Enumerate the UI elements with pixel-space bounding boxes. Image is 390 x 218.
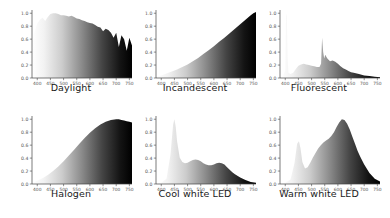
y-tick-label: 0.8: [269, 24, 276, 29]
spectrum-area: [32, 13, 132, 78]
chart-title-fluorescent: Fluorescent: [254, 82, 384, 93]
y-tick-label: 0.4: [269, 50, 276, 55]
y-tick-label: 0.6: [269, 37, 276, 42]
y-tick-label: 1.0: [145, 11, 152, 16]
y-tick-label: 0.2: [269, 63, 276, 68]
y-tick-label: 0.8: [21, 130, 28, 135]
y-tick-label: 0.2: [21, 169, 28, 174]
y-tick-label: 1.0: [269, 117, 276, 122]
chart-panel-daylight: 0.00.20.40.60.81.04004505005506006507007…: [6, 2, 136, 111]
chart-plot-fluorescent: 0.00.20.40.60.81.04004505005506006507007…: [254, 2, 384, 111]
chart-panel-cool-white-led: 0.00.20.40.60.81.04004505005506006507007…: [130, 108, 260, 217]
y-tick-label: 0.6: [21, 37, 28, 42]
y-tick-label: 0.2: [269, 169, 276, 174]
y-tick-label: 0.6: [145, 37, 152, 42]
y-tick-label: 1.0: [21, 11, 28, 16]
y-tick-label: 1.0: [269, 11, 276, 16]
y-tick-label: 0.2: [145, 169, 152, 174]
chart-plot-incandescent: 0.00.20.40.60.81.04004505005506006507007…: [130, 2, 260, 111]
y-tick-label: 0.4: [145, 156, 152, 161]
spectrum-area: [32, 119, 132, 184]
chart-panel-warm-white-led: 0.00.20.40.60.81.04004505005506006507007…: [254, 108, 384, 217]
chart-plot-cool-white-led: 0.00.20.40.60.81.04004505005506006507007…: [130, 108, 260, 217]
y-tick-label: 0.4: [145, 50, 152, 55]
y-tick-label: 0.0: [269, 76, 276, 81]
chart-title-cool-white-led: Cool white LED: [130, 188, 260, 199]
chart-title-incandescent: Incandescent: [130, 82, 260, 93]
y-tick-label: 0.0: [21, 76, 28, 81]
chart-title-daylight: Daylight: [6, 82, 136, 93]
y-tick-label: 0.4: [269, 156, 276, 161]
y-tick-label: 0.8: [145, 130, 152, 135]
spectrum-area: [280, 13, 380, 78]
y-tick-label: 0.2: [21, 63, 28, 68]
chart-plot-daylight: 0.00.20.40.60.81.04004505005506006507007…: [6, 2, 136, 111]
chart-panel-fluorescent: 0.00.20.40.60.81.04004505005506006507007…: [254, 2, 384, 111]
y-tick-label: 0.0: [269, 182, 276, 187]
y-tick-label: 0.8: [21, 24, 28, 29]
y-tick-label: 0.0: [21, 182, 28, 187]
chart-plot-halogen: 0.00.20.40.60.81.04004505005506006507007…: [6, 108, 136, 217]
spectrum-area: [156, 119, 256, 184]
y-tick-label: 0.4: [21, 50, 28, 55]
y-tick-label: 0.6: [21, 143, 28, 148]
y-tick-label: 0.8: [145, 24, 152, 29]
spectrum-area: [156, 12, 256, 78]
spectrum-area: [280, 119, 380, 184]
spectral-power-distribution-figure: 0.00.20.40.60.81.04004505005506006507007…: [0, 0, 390, 218]
y-tick-label: 0.2: [145, 63, 152, 68]
y-tick-label: 0.0: [145, 76, 152, 81]
y-tick-label: 0.8: [269, 130, 276, 135]
y-tick-label: 0.4: [21, 156, 28, 161]
y-tick-label: 1.0: [145, 117, 152, 122]
chart-title-warm-white-led: Warm white LED: [254, 188, 384, 199]
chart-title-halogen: Halogen: [6, 188, 136, 199]
y-tick-label: 1.0: [21, 117, 28, 122]
y-tick-label: 0.6: [269, 143, 276, 148]
y-tick-label: 0.0: [145, 182, 152, 187]
chart-plot-warm-white-led: 0.00.20.40.60.81.04004505005506006507007…: [254, 108, 384, 217]
chart-panel-halogen: 0.00.20.40.60.81.04004505005506006507007…: [6, 108, 136, 217]
y-tick-label: 0.6: [145, 143, 152, 148]
chart-panel-incandescent: 0.00.20.40.60.81.04004505005506006507007…: [130, 2, 260, 111]
